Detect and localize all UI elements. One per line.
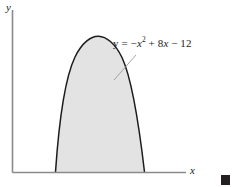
curve-equation-label: y = −x2 + 8x − 12 bbox=[113, 38, 192, 49]
page-corner-marker bbox=[221, 175, 230, 185]
equation-part-prefix: y = − bbox=[113, 37, 137, 49]
plot-canvas bbox=[0, 0, 232, 187]
x-axis-label: x bbox=[190, 165, 195, 176]
equation-part-suffix-b: − 12 bbox=[168, 37, 191, 49]
equation-part-suffix-a: + 8 bbox=[146, 37, 164, 49]
shaded-region bbox=[56, 36, 145, 172]
figure-parabola-graph: y x y = −x2 + 8x − 12 bbox=[0, 0, 232, 187]
y-axis-label: y bbox=[6, 2, 11, 13]
